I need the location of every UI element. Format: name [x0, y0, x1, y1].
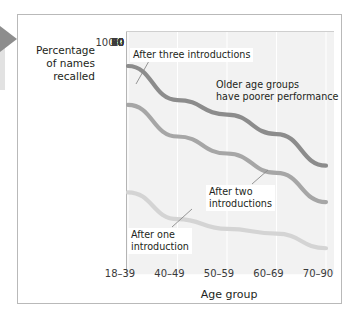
annotation-older-age-groups: Older age groups have poorer performance: [213, 78, 342, 104]
annotation-after-two-introductions: After two introductions: [206, 185, 275, 211]
y-axis-title-line-2: of names: [20, 57, 95, 70]
y-axis-title-line-1: Percentage: [20, 44, 95, 57]
x-axis-tick-labels: 18–3940–4950–5960–6970–90: [118, 268, 340, 284]
y-axis-title-line-3: recalled: [20, 70, 95, 83]
annotation-older-line-2: have poorer performance: [216, 91, 339, 103]
y-axis-title: Percentage of names recalled: [20, 44, 95, 83]
x-tick-label: 18–39: [105, 268, 135, 279]
left-triangle-pointer-icon: [0, 26, 17, 52]
x-axis-title: Age group: [118, 288, 340, 301]
annotation-after-one-introduction: After one introduction: [128, 228, 192, 254]
x-tick-label: 60–69: [253, 268, 283, 279]
annotation-one-line-2: introduction: [131, 241, 189, 253]
annotation-one-line-1: After one: [131, 229, 189, 241]
x-tick-label: 40–49: [154, 268, 184, 279]
x-tick-label: 70–90: [303, 268, 333, 279]
figure-root: Percentage of names recalled 100%9080706…: [0, 0, 353, 325]
x-tick-label: 50–59: [204, 268, 234, 279]
annotation-older-line-1: Older age groups: [216, 79, 339, 91]
y-tick-label: 0: [118, 37, 124, 48]
y-axis-tick-labels: 100%9080706050403020100: [86, 42, 124, 274]
annotation-after-three-introductions: After three introductions: [130, 48, 253, 62]
annotation-two-line-2: introductions: [209, 198, 272, 210]
annotation-two-line-1: After two: [209, 186, 272, 198]
